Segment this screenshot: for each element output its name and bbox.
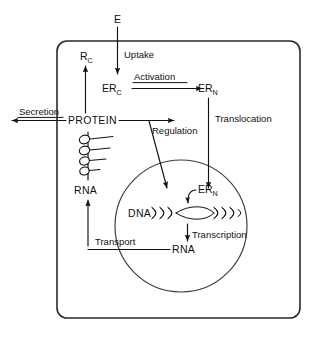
nascent-chain [89,170,100,171]
label-complex-ERN: ERN [198,82,218,97]
ribosome-icon [78,134,90,145]
label-complex-ERC: ERC [102,82,122,97]
label-protein: PROTEIN [68,114,117,126]
ribosome-group [78,134,113,176]
diagram-svg: E Uptake RC ERC Activation ERN Transloca… [0,0,317,338]
label-regulation: Regulation [152,125,197,136]
label-activation: Activation [134,71,175,82]
nascent-chain [90,137,113,140]
ribosome-icon [78,145,90,156]
arrow-ERN-binds-dna [188,190,196,203]
nascent-chain [90,159,107,161]
label-secretion: Secretion [19,106,59,117]
label-rna-cytoplasm: RNA [74,184,97,196]
label-uptake: Uptake [124,49,154,60]
label-transcription: Transcription [192,229,247,240]
ribosome-icon [79,156,91,167]
nascent-chain [90,148,110,150]
label-hormone-E: E [114,13,121,25]
label-receptor-RC: RC [80,50,93,65]
label-complex-ERN-dna: ERN [198,183,218,198]
label-translocation: Translocation [215,113,272,124]
label-transport: Transport [95,236,136,247]
label-dna: DNA [128,207,151,219]
diagram-canvas: E Uptake RC ERC Activation ERN Transloca… [0,0,317,338]
nucleus-membrane [115,160,247,292]
dna-helix [152,207,241,219]
label-rna-nucleus: RNA [172,243,195,255]
